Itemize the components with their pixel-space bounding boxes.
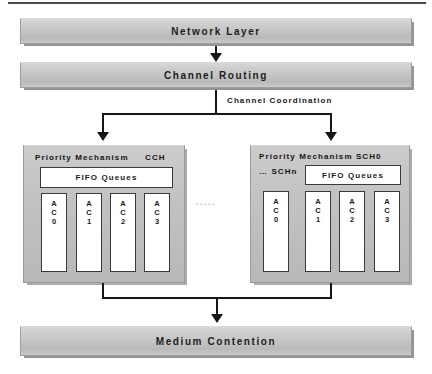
queue-char: C <box>51 208 56 217</box>
queue-char: 2 <box>350 215 354 224</box>
panel-sch-channel-label: … SCHn <box>259 167 298 176</box>
fifo-queues-box-cch: FIFO Queues <box>40 167 173 188</box>
queue-char: A <box>86 199 91 208</box>
channel-routing-bar: Channel Routing <box>20 62 412 88</box>
queue-char: C <box>315 206 320 215</box>
channel-routing-label: Channel Routing <box>164 70 268 81</box>
queue-char: 1 <box>87 217 91 226</box>
top-rule-divider <box>8 2 426 4</box>
queue-char: A <box>349 197 354 206</box>
queue-char: 3 <box>155 217 159 226</box>
panel-sch-title: Priority Mechanism SCH0 <box>259 152 382 161</box>
network-layer-bar: Network Layer <box>20 18 412 44</box>
panels-ellipsis: ..... <box>196 197 216 207</box>
queue-char: C <box>154 208 159 217</box>
queue-char: C <box>120 208 125 217</box>
arrowhead-routing-to-sch <box>325 132 337 141</box>
arrowhead-network-to-routing <box>210 53 222 62</box>
arrowhead-routing-to-cch <box>97 132 109 141</box>
connector-routing-split-bus <box>102 113 331 115</box>
connector-routing-stem <box>215 90 217 115</box>
queue-char: C <box>273 206 278 215</box>
panel-cch-title: Priority Mechanism <box>35 153 129 162</box>
queue-ac2-sch: A C 2 <box>339 191 365 272</box>
queue-ac1-cch: A C 1 <box>76 193 102 272</box>
queue-char: A <box>120 199 125 208</box>
queue-char: A <box>273 197 278 206</box>
queue-char: 0 <box>52 217 56 226</box>
diagram-canvas: Network Layer Channel Routing Channel Co… <box>0 0 432 374</box>
queue-ac2-cch: A C 2 <box>110 193 136 272</box>
fifo-queues-label-cch: FIFO Queues <box>76 173 138 182</box>
queue-char: 3 <box>385 215 389 224</box>
priority-mechanism-panel-sch: Priority Mechanism SCH0 … SCHn FIFO Queu… <box>250 145 410 283</box>
queue-ac0-sch: A C 0 <box>263 191 289 272</box>
queue-char: 2 <box>121 217 125 226</box>
channel-coordination-label: Channel Coordination <box>227 96 333 105</box>
queue-char: 1 <box>316 215 320 224</box>
arrowhead-merge-to-medium <box>211 314 223 323</box>
queue-char: A <box>315 197 320 206</box>
queue-char: A <box>154 199 159 208</box>
queue-char: 0 <box>274 215 278 224</box>
queue-ac3-sch: A C 3 <box>374 191 400 272</box>
queue-ac1-sch: A C 1 <box>305 191 331 272</box>
queue-char: A <box>384 197 389 206</box>
fifo-queues-box-sch: FIFO Queues <box>305 165 401 185</box>
medium-contention-label: Medium Contention <box>156 336 277 347</box>
connector-routing-to-sch <box>330 113 332 134</box>
network-layer-label: Network Layer <box>171 26 261 37</box>
connector-routing-to-cch <box>102 113 104 134</box>
priority-mechanism-panel-cch: Priority Mechanism CCH FIFO Queues A C 0… <box>23 145 185 283</box>
queue-ac0-cch: A C 0 <box>41 193 67 272</box>
queue-char: A <box>51 199 56 208</box>
queue-char: C <box>349 206 354 215</box>
medium-contention-bar: Medium Contention <box>20 326 412 356</box>
queue-char: C <box>86 208 91 217</box>
queue-char: C <box>384 206 389 215</box>
fifo-queues-label-sch: FIFO Queues <box>322 171 384 180</box>
panel-cch-channel-label: CCH <box>145 153 166 162</box>
queue-ac3-cch: A C 3 <box>144 193 170 272</box>
